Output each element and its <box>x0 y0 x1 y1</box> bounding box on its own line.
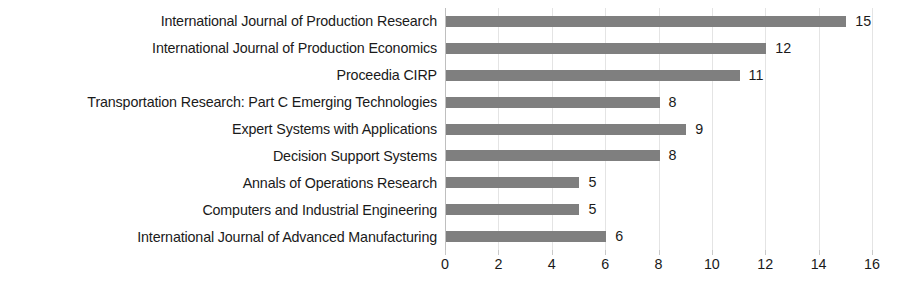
value-tick-label: 10 <box>704 256 720 272</box>
axis-tick-mark <box>819 250 820 255</box>
plot-area: 151211898556 <box>445 8 872 250</box>
gridline <box>872 8 873 250</box>
axis-tick-mark <box>605 250 606 255</box>
category-label: International Journal of Production Rese… <box>0 13 437 29</box>
bar-value-label: 8 <box>669 148 677 162</box>
value-tick-label: 4 <box>548 256 556 272</box>
bar <box>446 97 660 108</box>
category-label: International Journal of Advanced Manufa… <box>0 229 437 245</box>
axis-tick-mark <box>872 250 873 255</box>
category-label: Annals of Operations Research <box>0 175 437 191</box>
bar-value-label: 6 <box>615 229 623 243</box>
bar-value-label: 11 <box>749 68 764 82</box>
bar <box>446 70 740 81</box>
value-tick-label: 8 <box>655 256 663 272</box>
bar <box>446 16 846 27</box>
gridline <box>819 8 820 250</box>
bar <box>446 177 579 188</box>
category-axis-labels: International Journal of Production Rese… <box>0 8 437 250</box>
value-tick-label: 14 <box>811 256 827 272</box>
value-tick-label: 12 <box>757 256 773 272</box>
bar <box>446 231 606 242</box>
bar-value-label: 8 <box>669 95 677 109</box>
bar-value-label: 9 <box>695 122 703 136</box>
bar-value-label: 5 <box>588 175 596 189</box>
category-label: International Journal of Production Econ… <box>0 40 437 56</box>
value-tick-label: 2 <box>494 256 502 272</box>
axis-tick-mark <box>552 250 553 255</box>
bar <box>446 204 579 215</box>
category-label: Computers and Industrial Engineering <box>0 202 437 218</box>
bar <box>446 124 686 135</box>
category-label: Expert Systems with Applications <box>0 121 437 137</box>
bar-chart: International Journal of Production Rese… <box>0 0 909 299</box>
value-tick-label: 16 <box>864 256 880 272</box>
axis-tick-mark <box>659 250 660 255</box>
axis-tick-mark <box>498 250 499 255</box>
value-tick-label: 6 <box>601 256 609 272</box>
axis-tick-mark <box>445 250 446 255</box>
value-tick-label: 0 <box>441 256 449 272</box>
bar-value-label: 15 <box>855 14 871 28</box>
bar <box>446 43 766 54</box>
axis-tick-mark <box>765 250 766 255</box>
category-label: Decision Support Systems <box>0 148 437 164</box>
axis-tick-mark <box>712 250 713 255</box>
bar-value-label: 12 <box>775 41 791 55</box>
value-axis-labels: 0246810121416 <box>445 256 872 278</box>
bar-value-label: 5 <box>588 202 596 216</box>
bar <box>446 150 660 161</box>
category-label: Transportation Research: Part C Emerging… <box>0 94 437 110</box>
category-label: Proceedia CIRP <box>0 67 437 83</box>
